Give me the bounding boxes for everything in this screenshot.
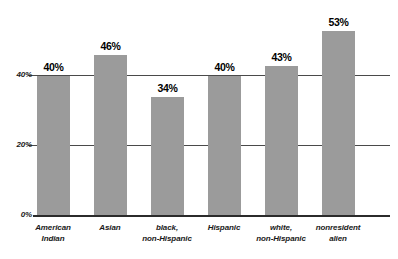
bar-nonresident-alien xyxy=(322,31,355,216)
y-tick-label-0: 0% xyxy=(0,211,32,219)
category-label-5: nonresident alien xyxy=(301,222,375,244)
bar-chart: 40% 20% 0% 40% 46% 34% 40% 43% 53% xyxy=(0,0,398,259)
bar-white-non-hispanic xyxy=(265,66,298,216)
bar-value-3: 40% xyxy=(199,62,250,73)
y-tick-label-40: 40% xyxy=(0,71,32,79)
bar-black-non-hispanic xyxy=(151,97,184,216)
bar-american-indian xyxy=(37,76,70,216)
bar-value-1: 46% xyxy=(85,41,136,52)
bar-value-2: 34% xyxy=(142,83,193,94)
y-tick-label-20: 20% xyxy=(0,141,32,149)
bar-value-5: 53% xyxy=(313,17,364,28)
x-axis-baseline xyxy=(33,215,390,217)
plot-area: 40% 20% 0% 40% 46% 34% 40% 43% 53% xyxy=(0,0,398,259)
bar-value-0: 40% xyxy=(28,62,79,73)
bar-value-4: 43% xyxy=(256,52,307,63)
bar-asian xyxy=(94,55,127,216)
bar-hispanic xyxy=(208,76,241,216)
